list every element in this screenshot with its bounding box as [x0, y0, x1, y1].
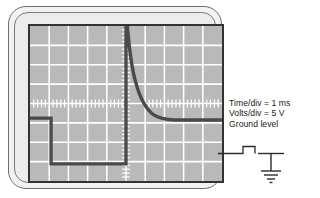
ground-level-label: Ground level [229, 119, 319, 129]
scope-settings-annotation: Time/div = 1 ms Volts/div = 5 V Ground l… [229, 98, 319, 129]
oscilloscope-bezel-inner [14, 12, 216, 183]
ground-callout-svg [214, 140, 320, 192]
oscilloscope-screen [30, 26, 222, 181]
volts-per-div-label: Volts/div = 5 V [229, 108, 319, 118]
earth-ground-icon [258, 154, 284, 183]
leader-line [218, 147, 255, 154]
oscilloscope-screen-frame [28, 24, 224, 183]
oscilloscope-bezel [8, 6, 222, 189]
ground-reference-callout [214, 140, 320, 192]
graticule-and-trace-svg [30, 26, 222, 181]
time-per-div-label: Time/div = 1 ms [229, 98, 319, 108]
